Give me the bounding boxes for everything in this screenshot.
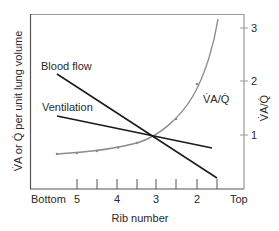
vq-point (76, 152, 79, 155)
vq-curve (57, 19, 218, 154)
x-tick-label-3: 3 (153, 193, 159, 205)
vq-point (136, 142, 139, 145)
vq-curve-label: V̇A/Q̇ (203, 93, 230, 105)
vq-point (175, 118, 178, 121)
x-axis-title: Rib number (112, 212, 169, 224)
y-right-axis-title: V̇A/Q̇ (258, 94, 270, 121)
x-ticks (77, 179, 217, 189)
chart: 3 2 1 V̇A/Q̇ V̇A or Q̇ per unit lung vol… (0, 0, 279, 231)
y-left-axis-title: V̇A or Q̇ per unit lung volume (12, 31, 24, 172)
x-tick-label-5: 5 (74, 193, 80, 205)
x-label-top: Top (230, 193, 248, 205)
vq-series (56, 19, 218, 155)
vq-point (117, 146, 120, 149)
x-tick-label-2: 2 (194, 193, 200, 205)
x-tick-label-4: 4 (114, 193, 120, 205)
blood-flow-label: Blood flow (41, 60, 92, 72)
blood-flow-line (57, 74, 217, 178)
vq-point (56, 153, 59, 156)
y-tick-label-3: 3 (251, 22, 257, 34)
y-tick-label-2: 2 (251, 75, 257, 87)
y-tick-label-1: 1 (251, 129, 257, 141)
vq-point (196, 83, 199, 86)
vq-point (96, 150, 99, 153)
ventilation-label: Ventilation (42, 101, 93, 113)
x-label-bottom: Bottom (31, 193, 66, 205)
